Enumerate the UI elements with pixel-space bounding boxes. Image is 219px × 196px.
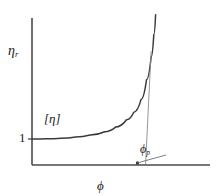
phi-p-callout-group xyxy=(136,155,166,165)
packing-fraction-annotation: ϕp xyxy=(140,143,150,155)
y-axis-label: ηr xyxy=(8,44,18,58)
axes-group xyxy=(32,18,210,165)
y-axis-tick-label-one: 1 xyxy=(19,131,26,144)
intrinsic-viscosity-annotation: [η] xyxy=(44,112,61,125)
y-axis-label-symbol: η xyxy=(8,43,15,58)
x-axis-label: ϕ xyxy=(97,179,104,192)
viscosity-vs-volume-fraction-figure: ηr ϕ 1 [η] ϕp xyxy=(0,0,219,196)
phi-p-subscript: p xyxy=(146,148,150,157)
phi-p-leader-line xyxy=(137,155,166,163)
plot-canvas xyxy=(0,0,219,196)
y-axis-label-subscript: r xyxy=(15,49,18,59)
